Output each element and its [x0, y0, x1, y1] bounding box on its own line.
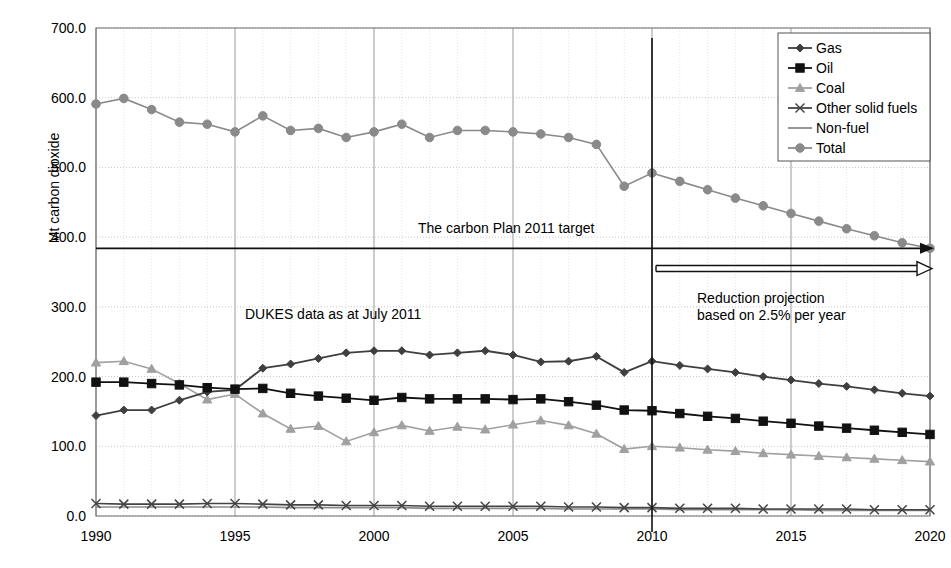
data-point [620, 406, 628, 414]
data-point [815, 380, 823, 388]
data-point [425, 395, 433, 403]
data-point [703, 412, 711, 420]
data-point [509, 351, 517, 359]
data-point [370, 396, 378, 404]
data-point [92, 378, 100, 386]
data-point [175, 381, 183, 389]
data-point [258, 409, 267, 417]
data-point [759, 373, 767, 381]
data-point [92, 100, 101, 109]
data-point [398, 393, 406, 401]
data-point [676, 177, 685, 186]
data-point [453, 422, 462, 430]
annotation-reduction-line1: Reduction projection [697, 290, 846, 307]
y-tick-label: 600.0 [51, 90, 86, 106]
data-point [286, 389, 294, 397]
data-point [370, 347, 378, 355]
data-point [286, 126, 295, 135]
data-point [453, 126, 462, 135]
data-point [314, 392, 322, 400]
data-point [425, 133, 434, 142]
data-point [398, 120, 407, 129]
x-tick-label: 2015 [775, 528, 806, 544]
data-point [842, 424, 850, 432]
data-point [620, 368, 628, 376]
data-point [796, 64, 804, 72]
data-point [898, 389, 906, 397]
data-point [842, 224, 851, 233]
data-point [815, 422, 823, 430]
data-point [926, 430, 934, 438]
data-point [314, 124, 323, 133]
data-point [537, 130, 546, 139]
data-point [231, 385, 239, 393]
data-point [870, 386, 878, 394]
x-tick-label: 2020 [914, 528, 945, 544]
data-point [759, 201, 768, 210]
data-point [870, 231, 879, 240]
data-point [147, 379, 155, 387]
data-point [787, 419, 795, 427]
chart-container: Mt carbon dioxide 0.0100.0200.0300.0400.… [0, 0, 951, 568]
data-point [843, 382, 851, 390]
data-point [259, 384, 267, 392]
data-point [148, 406, 156, 414]
data-point [481, 347, 489, 355]
x-tick-label: 2005 [497, 528, 528, 544]
data-point [898, 238, 907, 247]
data-point [676, 409, 684, 417]
data-point [796, 144, 805, 153]
data-point [703, 185, 712, 194]
data-point [175, 118, 184, 127]
data-point [370, 128, 379, 137]
annotation-reduction-line2: based on 2.5% per year [697, 307, 846, 324]
data-point [342, 349, 350, 357]
y-tick-label: 200.0 [51, 369, 86, 385]
data-point [564, 397, 572, 405]
legend: GasOilCoalOther solid fuelsNon-fuelTotal [778, 33, 930, 161]
data-point [704, 365, 712, 373]
data-point [537, 358, 545, 366]
annotation-reduction: Reduction projection based on 2.5% per y… [697, 290, 846, 324]
data-point [120, 378, 128, 386]
data-point [397, 421, 406, 429]
data-point [314, 421, 323, 429]
data-point [120, 406, 128, 414]
data-point [259, 112, 268, 121]
data-point [398, 347, 406, 355]
data-point [509, 395, 517, 403]
data-point [787, 376, 795, 384]
x-tick-label: 1990 [80, 528, 111, 544]
legend-label-gas: Gas [816, 40, 842, 56]
data-point [287, 360, 295, 368]
data-point [453, 395, 461, 403]
data-point [175, 396, 183, 404]
data-point [592, 140, 601, 149]
legend-label-total: Total [816, 140, 846, 156]
y-tick-label: 0.0 [67, 508, 87, 524]
annotation-dukes: DUKES data as at July 2011 [245, 306, 421, 322]
x-tick-label: 2000 [358, 528, 389, 544]
data-point [120, 94, 129, 103]
legend-label-other-solid-fuels: Other solid fuels [816, 100, 917, 116]
data-point [731, 194, 740, 203]
data-point [787, 209, 796, 218]
data-point [426, 351, 434, 359]
data-point [231, 128, 240, 137]
y-tick-label: 700.0 [51, 20, 86, 36]
y-tick-label: 500.0 [51, 159, 86, 175]
data-point [537, 395, 545, 403]
y-tick-label: 300.0 [51, 299, 86, 315]
data-point [731, 414, 739, 422]
data-point [481, 395, 489, 403]
data-point [453, 349, 461, 357]
x-tick-label: 1995 [219, 528, 250, 544]
data-point [509, 128, 518, 137]
data-point [926, 392, 934, 400]
data-point [731, 368, 739, 376]
y-tick-label: 400.0 [51, 229, 86, 245]
data-point [536, 416, 545, 424]
data-point [92, 412, 100, 420]
data-point [759, 417, 767, 425]
data-point [342, 394, 350, 402]
